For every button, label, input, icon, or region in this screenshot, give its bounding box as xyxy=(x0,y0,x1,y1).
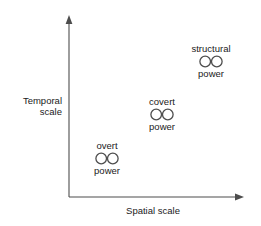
diagram-canvas: Temporal scale Spatial scale overt power… xyxy=(0,0,261,226)
x-axis-arrowhead xyxy=(235,194,244,201)
data-point-bottom-label: power xyxy=(78,165,136,176)
data-point-bottom-label: power xyxy=(178,68,244,79)
data-point-overt-power: overt power xyxy=(78,140,136,176)
infinity-icon xyxy=(133,108,191,121)
data-point-bottom-label: power xyxy=(133,121,191,132)
x-axis-label: Spatial scale xyxy=(58,206,248,217)
y-axis-label: Temporal scale xyxy=(0,96,62,117)
y-axis-arrowhead xyxy=(66,15,73,24)
data-point-top-label: overt xyxy=(78,140,136,151)
data-point-top-label: structural xyxy=(178,43,244,54)
infinity-icon xyxy=(178,55,244,68)
data-point-covert-power: covert power xyxy=(133,96,191,132)
data-point-top-label: covert xyxy=(133,96,191,107)
y-axis-label-line-2: scale xyxy=(0,107,62,118)
infinity-icon xyxy=(78,152,136,165)
y-axis-label-line-1: Temporal xyxy=(0,96,62,107)
data-point-structural-power: structural power xyxy=(178,43,244,79)
